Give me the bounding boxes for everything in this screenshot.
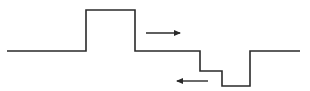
waveform-diagram [0, 0, 310, 91]
waveform-line [7, 10, 300, 86]
